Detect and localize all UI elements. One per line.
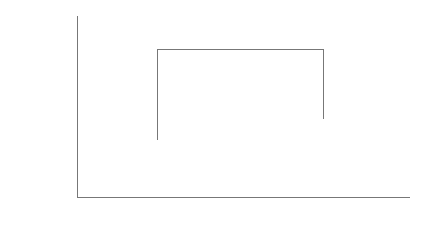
y-axis-line <box>77 16 78 197</box>
bracket-right <box>323 49 324 119</box>
x-axis-line <box>77 197 410 198</box>
bracket-top <box>157 49 324 50</box>
bracket-left <box>157 49 158 140</box>
